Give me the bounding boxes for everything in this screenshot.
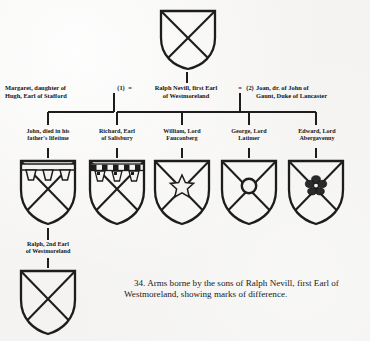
son-label-george: George, Lord Latimer (211, 128, 287, 142)
mark-rose (305, 176, 326, 195)
figure-caption: 34. Arms borne by the sons of Ralph Nevi… (124, 278, 364, 300)
marriage-second-marker: (2) (244, 84, 256, 92)
son-label-william: William, Lord Fauconberg (143, 128, 221, 142)
marriage-equals-left: = (126, 84, 134, 92)
son-label-edward: Edward, Lord Abergavenny (277, 128, 357, 142)
marriage-equals-right: = (236, 84, 244, 92)
marriage-wife-second-label: Joan, dr. of John of Gaunt, Duke of Lanc… (256, 84, 368, 99)
grandson-label-ralph: Ralph, 2nd Earl of Westmoreland (5, 241, 91, 255)
mark-mullet (170, 175, 193, 197)
mark-label (19, 164, 77, 180)
figure-page: Margaret, daughter of Hugh, Earl of Staf… (0, 0, 370, 341)
mark-label-compony (88, 164, 146, 181)
mark-annulet (242, 179, 256, 193)
marriage-husband-label: Ralph Nevill, first Earl of Westmoreland (134, 84, 238, 99)
marriage-wife-first-label: Margaret, daughter of Hugh, Earl of Staf… (5, 84, 115, 99)
